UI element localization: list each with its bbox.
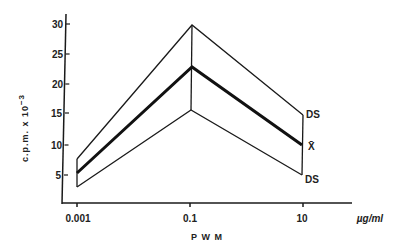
y-axis-title: c.p.m. x 10−3	[17, 94, 30, 162]
ytick-label-25: 25	[52, 49, 64, 60]
series-label-upper-ds: DS	[306, 109, 320, 120]
ytick-label-10: 10	[51, 140, 63, 151]
x-tick-labels: 0.001 0.1 10 µg/ml	[65, 213, 383, 224]
ytick-label-30: 30	[52, 19, 64, 30]
ytick-label-20: 20	[52, 79, 64, 90]
xtick-label-0.001: 0.001	[65, 213, 90, 224]
ytick-label-15: 15	[51, 108, 63, 119]
y-axis-title-text: c.p.m. x 10	[20, 105, 30, 162]
x-axis-title: P W M	[191, 232, 223, 242]
series-label-lower-ds: DS	[305, 174, 319, 185]
x-unit-label: µg/ml	[356, 213, 384, 224]
series-upper-ds-line	[77, 25, 303, 159]
chart: 5 10 15 20 25 30 0.001 0.1 10 µg/ml P W …	[0, 0, 398, 251]
y-tick-labels: 5 10 15 20 25 30	[51, 19, 64, 181]
connectors	[77, 25, 303, 187]
y-axis-title-exponent: −3	[17, 94, 26, 105]
series-label-mean: X̄	[308, 141, 315, 152]
xtick-label-0.1: 0.1	[183, 213, 197, 224]
xtick-label-10: 10	[296, 213, 308, 224]
ytick-label-5: 5	[55, 170, 61, 181]
y-axis-title-group: c.p.m. x 10−3	[17, 94, 30, 162]
x-axis	[62, 203, 352, 207]
